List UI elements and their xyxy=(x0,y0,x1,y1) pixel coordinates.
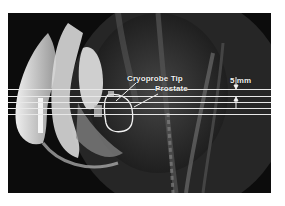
scale-label: 5 mm xyxy=(230,76,251,85)
mri-scan-graphic xyxy=(8,13,271,193)
mri-image: Cryoprobe Tip Prostate 5 mm xyxy=(8,13,271,193)
prostate-label: Prostate xyxy=(155,84,188,93)
cryoprobe-tip-label: Cryoprobe Tip xyxy=(127,74,183,83)
